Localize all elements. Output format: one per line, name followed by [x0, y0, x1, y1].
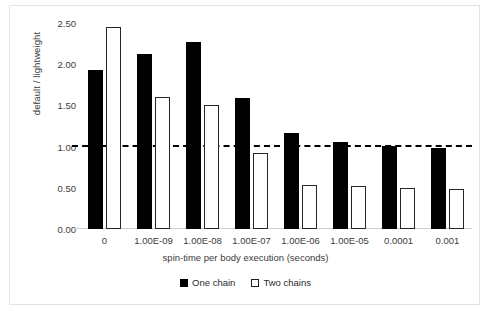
- legend-label: One chain: [192, 277, 235, 288]
- x-axis-tick-label: 0.001: [423, 235, 472, 246]
- bar-group: [129, 23, 178, 229]
- legend-swatch-icon: [251, 279, 259, 287]
- chart-frame: default / lightweight 0.000.501.001.502.…: [9, 5, 480, 305]
- bar-two-chains[interactable]: [400, 188, 415, 229]
- bar-group: [374, 23, 423, 229]
- bar-group: [80, 23, 129, 229]
- plot-wrapper: default / lightweight 0.000.501.001.502.…: [10, 6, 479, 304]
- bar-one-chain[interactable]: [284, 133, 299, 229]
- y-axis-tick-label: 2.00: [40, 59, 76, 70]
- bar-one-chain[interactable]: [137, 54, 152, 230]
- bar-one-chain[interactable]: [333, 142, 348, 229]
- legend-swatch-icon: [180, 279, 188, 287]
- y-axis-tick-label: 0.50: [40, 182, 76, 193]
- bar-group: [227, 23, 276, 229]
- bar-group: [423, 23, 472, 229]
- plot-area: [80, 23, 472, 229]
- bar-group: [325, 23, 374, 229]
- x-axis-tick-label: 1.00E-09: [129, 235, 178, 246]
- legend-label: Two chains: [263, 277, 311, 288]
- x-axis-title: spin-time per body execution (seconds): [10, 252, 481, 263]
- bar-one-chain[interactable]: [235, 98, 250, 229]
- x-axis-tick-label: 1.00E-08: [178, 235, 227, 246]
- bar-two-chains[interactable]: [351, 186, 366, 229]
- legend-item[interactable]: One chain: [180, 277, 235, 288]
- y-axis-tick-label: 2.50: [40, 18, 76, 29]
- x-axis-tick-label: 0: [80, 235, 129, 246]
- bar-one-chain[interactable]: [88, 70, 103, 229]
- x-axis-tick-label: 0.0001: [374, 235, 423, 246]
- bar-one-chain[interactable]: [431, 148, 446, 229]
- bar-two-chains[interactable]: [155, 97, 170, 229]
- bar-one-chain[interactable]: [186, 42, 201, 229]
- bar-two-chains[interactable]: [253, 153, 268, 229]
- y-axis-tick-label: 1.50: [40, 100, 76, 111]
- bar-two-chains[interactable]: [106, 27, 121, 229]
- x-axis-tick-label: 1.00E-05: [325, 235, 374, 246]
- y-axis-tick-label: 1.00: [40, 141, 76, 152]
- x-axis-tick-label: 1.00E-06: [276, 235, 325, 246]
- y-axis-tick-label: 0.00: [40, 224, 76, 235]
- bar-two-chains[interactable]: [204, 105, 219, 229]
- bars-layer: [80, 23, 472, 229]
- bar-group: [178, 23, 227, 229]
- x-axis-tick-label: 1.00E-07: [227, 235, 276, 246]
- x-axis-tick-labels: 01.00E-091.00E-081.00E-071.00E-061.00E-0…: [80, 235, 472, 246]
- bar-group: [276, 23, 325, 229]
- bar-one-chain[interactable]: [382, 146, 397, 229]
- legend-item[interactable]: Two chains: [251, 277, 311, 288]
- chart-legend: One chainTwo chains: [10, 277, 481, 288]
- bar-two-chains[interactable]: [449, 189, 464, 229]
- bar-two-chains[interactable]: [302, 185, 317, 229]
